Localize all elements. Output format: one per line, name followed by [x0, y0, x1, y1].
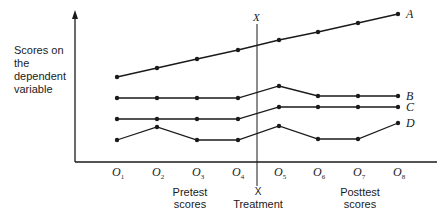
ylabel-line: variable — [14, 83, 74, 96]
data-point — [195, 117, 199, 121]
data-point — [277, 124, 281, 128]
data-point — [277, 105, 281, 109]
tick-o3: O3 — [192, 165, 204, 181]
data-point — [155, 96, 159, 100]
data-point — [356, 21, 360, 25]
treatment-x-top: X — [253, 11, 260, 23]
data-point — [396, 94, 400, 98]
data-point — [115, 117, 119, 121]
data-point — [316, 137, 320, 141]
data-point — [115, 75, 119, 79]
data-point — [155, 117, 159, 121]
series-label-d: D — [406, 116, 415, 131]
data-point — [115, 96, 119, 100]
pretest-label: Pretestscores — [150, 186, 230, 210]
plot-area — [0, 0, 447, 212]
data-point — [277, 84, 281, 88]
data-point — [195, 138, 199, 142]
data-point — [316, 94, 320, 98]
y-axis-label: Scores on the dependent variable — [14, 44, 74, 96]
data-point — [356, 105, 360, 109]
data-point — [236, 138, 240, 142]
data-point — [316, 30, 320, 34]
data-point — [316, 105, 320, 109]
data-point — [195, 57, 199, 61]
data-point — [356, 137, 360, 141]
data-point — [155, 66, 159, 70]
data-point — [155, 125, 159, 129]
tick-o5: O5 — [274, 165, 286, 181]
tick-o4: O4 — [232, 165, 244, 181]
data-point — [115, 138, 119, 142]
data-point — [356, 94, 360, 98]
data-point — [277, 38, 281, 42]
data-point — [396, 105, 400, 109]
series-label-a: A — [406, 7, 413, 22]
tick-o2: O2 — [152, 165, 164, 181]
tick-o6: O6 — [313, 165, 325, 181]
ylabel-line: Scores on — [14, 44, 74, 57]
tick-o8: O8 — [393, 165, 405, 181]
ylabel-line: the — [14, 57, 74, 70]
y-axis-arrow-icon — [72, 10, 78, 19]
data-point — [236, 96, 240, 100]
tick-o7: O7 — [353, 165, 365, 181]
treatment-label: XTreatment — [228, 186, 288, 210]
tick-o1: O1 — [112, 165, 124, 181]
data-point — [396, 121, 400, 125]
data-point — [236, 117, 240, 121]
data-point — [396, 12, 400, 16]
ylabel-line: dependent — [14, 70, 74, 83]
posttest-label: Posttestscores — [320, 186, 400, 210]
data-point — [236, 48, 240, 52]
series-label-c: C — [406, 100, 414, 115]
data-point — [195, 96, 199, 100]
